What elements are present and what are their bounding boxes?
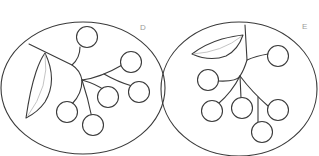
panel-d-berry xyxy=(57,102,78,123)
panel-d-label: D xyxy=(140,23,146,32)
panel-e-berry xyxy=(268,100,289,121)
panel-e-leaf xyxy=(192,35,243,59)
panel-d-berry xyxy=(77,27,98,48)
figure-canvas: D E xyxy=(0,0,319,156)
panel-e-berry xyxy=(252,122,273,143)
panel-d-stem-mid xyxy=(82,80,104,90)
panel-d: D xyxy=(1,22,165,154)
panel-d-stem-right xyxy=(82,64,124,80)
panel-e-berry xyxy=(202,101,223,122)
panel-e-berry xyxy=(198,70,219,91)
panel-e: E xyxy=(161,22,317,156)
panel-d-berry xyxy=(121,52,142,73)
panel-e-berry xyxy=(232,98,253,119)
panel-e-berry xyxy=(268,46,289,67)
panel-e-stem-left xyxy=(218,76,240,81)
panel-d-stem-bottom xyxy=(82,80,92,118)
panel-d-stem-right-lower xyxy=(104,74,132,86)
panel-e-stem-top-right xyxy=(247,54,268,60)
panel-d-berry xyxy=(83,115,104,136)
panel-d-stem-left-bottom xyxy=(72,80,82,104)
panel-e-main-stem xyxy=(240,25,247,76)
panel-e-stem-mid xyxy=(240,76,241,98)
panel-e-label: E xyxy=(302,22,307,31)
panel-d-leaf xyxy=(26,53,52,118)
panel-d-berry xyxy=(98,87,119,108)
panel-d-stem-top-berry xyxy=(72,47,80,65)
panel-d-berry xyxy=(129,82,150,103)
